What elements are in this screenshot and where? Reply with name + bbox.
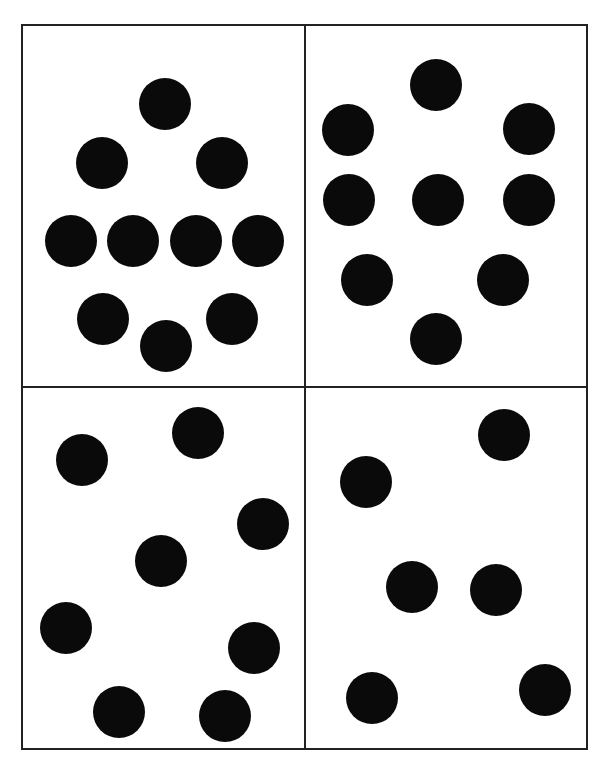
dot bbox=[323, 174, 375, 226]
dot bbox=[340, 456, 392, 508]
panel-bottom-right bbox=[340, 409, 571, 724]
dot bbox=[107, 215, 159, 267]
panel-top-left bbox=[45, 78, 284, 372]
dot bbox=[56, 434, 108, 486]
dot bbox=[386, 561, 438, 613]
dot-panels-figure bbox=[0, 0, 606, 767]
dot bbox=[503, 103, 555, 155]
panel-top-right bbox=[322, 59, 555, 365]
dot bbox=[140, 320, 192, 372]
dot bbox=[93, 686, 145, 738]
panel-bottom-left bbox=[40, 407, 289, 742]
dot bbox=[341, 254, 393, 306]
dot bbox=[410, 313, 462, 365]
dot bbox=[76, 137, 128, 189]
dot bbox=[228, 622, 280, 674]
dot bbox=[77, 293, 129, 345]
dot bbox=[346, 672, 398, 724]
dot bbox=[470, 564, 522, 616]
dot bbox=[139, 78, 191, 130]
dot bbox=[206, 293, 258, 345]
dot bbox=[196, 137, 248, 189]
dot bbox=[519, 664, 571, 716]
dot bbox=[45, 215, 97, 267]
dot bbox=[478, 409, 530, 461]
dot bbox=[199, 690, 251, 742]
dot bbox=[477, 254, 529, 306]
dot bbox=[232, 215, 284, 267]
dot bbox=[412, 174, 464, 226]
dot bbox=[40, 602, 92, 654]
dot bbox=[172, 407, 224, 459]
dot bbox=[322, 104, 374, 156]
dot bbox=[170, 215, 222, 267]
dot bbox=[237, 498, 289, 550]
panel-grid bbox=[22, 25, 587, 749]
dot bbox=[135, 535, 187, 587]
dot bbox=[410, 59, 462, 111]
dot bbox=[503, 174, 555, 226]
